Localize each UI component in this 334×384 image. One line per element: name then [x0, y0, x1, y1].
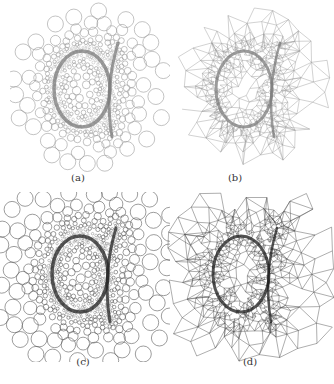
- circle-set: [0, 192, 170, 362]
- alpha-loop: [213, 236, 269, 312]
- panel-b-triangle-mesh: [172, 2, 332, 172]
- panel-a-circle-packing: [10, 2, 170, 172]
- panel-c-circle-packing: [0, 192, 170, 362]
- alpha-stroke: [109, 43, 118, 137]
- caption-c: (c): [63, 356, 103, 367]
- caption-b: (b): [215, 172, 255, 183]
- caption-d: (d): [230, 356, 270, 367]
- panel-d-triangle-mesh: [167, 192, 334, 362]
- caption-a: (a): [58, 172, 98, 183]
- mesh-edges: [178, 8, 329, 165]
- alpha-loop: [216, 51, 272, 127]
- mesh-edges: [168, 193, 334, 361]
- circle-set: [10, 3, 170, 172]
